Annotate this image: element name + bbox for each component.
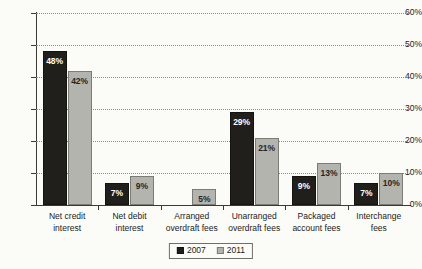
bar-value-label: 5% (193, 194, 215, 204)
x-axis-label-line: interest (32, 223, 102, 235)
bar-2011-1: 9% (130, 176, 154, 205)
category-separator (348, 205, 349, 210)
category-separator (161, 205, 162, 210)
x-axis-label-line: Arranged (157, 211, 227, 223)
x-axis-label-0: Net creditinterest (32, 211, 102, 234)
x-axis-label-line: overdraft fees (219, 223, 289, 235)
legend-item-2011: 2011 (217, 246, 245, 255)
legend-swatch-icon (177, 247, 184, 254)
x-axis-label-4: Packagedaccount fees (281, 211, 351, 234)
x-axis-line (31, 205, 411, 206)
bar-value-label: 7% (355, 188, 377, 198)
x-axis-label-5: Interchangefees (344, 211, 414, 234)
legend-swatch-icon (217, 247, 224, 254)
x-axis-label-line: Net debit (94, 211, 164, 223)
x-axis-label-line: interest (94, 223, 164, 235)
gridline (36, 141, 410, 142)
bar-value-label: 21% (256, 143, 278, 153)
gridline (36, 45, 410, 46)
x-axis-label-line: Net credit (32, 211, 102, 223)
bar-value-label: 7% (106, 188, 128, 198)
bar-2007-1: 7% (105, 183, 129, 205)
legend: 20072011 (169, 243, 253, 259)
bar-value-label: 13% (318, 168, 340, 178)
bar-value-label: 9% (131, 181, 153, 191)
gridline (36, 173, 410, 174)
category-separator (223, 205, 224, 210)
x-axis-label-1: Net debitinterest (94, 211, 164, 234)
x-axis-label-2: Arrangedoverdraft fees (157, 211, 227, 234)
legend-item-2007: 2007 (177, 246, 206, 255)
x-axis-label-line: fees (344, 223, 414, 235)
bar-2011-4: 13% (317, 163, 341, 205)
x-axis-label-line: account fees (281, 223, 351, 235)
gridline (36, 77, 410, 78)
bar-value-label: 10% (380, 178, 402, 188)
bar-value-label: 42% (69, 76, 91, 86)
bar-2007-4: 9% (292, 176, 316, 205)
bar-2011-2: 5% (192, 189, 216, 205)
y-tick-mark (31, 205, 36, 206)
bar-2011-3: 21% (255, 138, 279, 205)
bar-value-label: 48% (44, 56, 66, 66)
bar-2007-0: 48% (43, 51, 67, 205)
bar-value-label: 29% (231, 117, 253, 127)
bar-value-label: 9% (293, 181, 315, 191)
bar-2011-5: 10% (379, 173, 403, 205)
x-axis-label-line: Packaged (281, 211, 351, 223)
gridline (36, 109, 410, 110)
legend-label: 2007 (187, 246, 206, 255)
x-axis-label-3: Unarrangedoverdraft fees (219, 211, 289, 234)
bar-2011-0: 42% (68, 71, 92, 205)
category-separator (98, 205, 99, 210)
gridline (36, 13, 410, 14)
bar-2007-5: 7% (354, 183, 378, 205)
category-separator (285, 205, 286, 210)
legend-label: 2011 (227, 246, 245, 255)
x-axis-label-line: Unarranged (219, 211, 289, 223)
x-axis-label-line: overdraft fees (157, 223, 227, 235)
x-axis-label-line: Interchange (344, 211, 414, 223)
bar-chart: 0%10%20%30%40%50%60% 48%42%7%9%5%29%21%9… (0, 0, 422, 269)
plot-area: 48%42%7%9%5%29%21%9%13%7%10% (36, 13, 410, 205)
bar-2007-3: 29% (230, 112, 254, 205)
